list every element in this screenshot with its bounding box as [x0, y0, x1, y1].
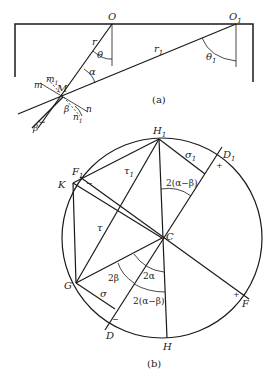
- r1-line: [18, 24, 236, 114]
- label-tau: τ: [97, 222, 103, 233]
- mohr-circle-figure: O O1 r r1 θ θ1 α m1 m M β n n1 β (a): [0, 0, 271, 386]
- label-D: D: [105, 330, 114, 341]
- label-K: K: [57, 179, 66, 190]
- label-F: F: [241, 298, 250, 309]
- label-n: n: [86, 104, 92, 114]
- arc-bottom: [134, 284, 165, 292]
- label-O1: O1: [229, 11, 242, 25]
- label-beta: β: [63, 104, 69, 114]
- label-angle-top: 2(α−β): [166, 178, 198, 188]
- label-angle-bottom: 2(α−β): [133, 296, 165, 306]
- label-tau1: τ1: [124, 165, 134, 179]
- label-C: C: [166, 231, 174, 242]
- label-2beta: 2β: [108, 273, 119, 283]
- label-minus-D: −: [112, 315, 119, 324]
- label-O: O: [108, 11, 116, 22]
- arc-top: [161, 188, 191, 196]
- caption-a: (a): [152, 94, 166, 105]
- label-H1: H1: [152, 125, 166, 139]
- label-G: G: [64, 280, 72, 291]
- sigma-line: [76, 283, 115, 309]
- label-H: H: [162, 341, 172, 352]
- label-plus-F: +: [233, 290, 240, 299]
- label-M: M: [56, 83, 68, 94]
- label-theta1: θ1: [206, 51, 217, 65]
- label-minus-F1: −: [86, 179, 93, 188]
- label-sigma1: σ1: [185, 149, 196, 163]
- label-sigma: σ: [100, 288, 108, 299]
- label-F1: F1: [71, 166, 83, 180]
- caption-b: (b): [147, 358, 161, 369]
- K-G-line: [73, 183, 76, 283]
- label-plus-D1: +: [216, 161, 223, 170]
- figure-a: O O1 r r1 θ θ1 α m1 m M β n n1 β (a): [15, 11, 253, 133]
- figure-b: H1 D1 + σ1 F1 − K τ1 2(α−β) τ C 2β 2α G …: [57, 125, 262, 369]
- label-2alpha: 2α: [143, 271, 155, 281]
- label-D1: D1: [222, 149, 236, 163]
- arc-2beta: [118, 263, 134, 283]
- label-m: m: [34, 80, 43, 90]
- label-r1: r1: [154, 43, 163, 57]
- label-alpha: α: [89, 66, 96, 77]
- label-beta-lower: β: [32, 123, 38, 133]
- arc-2alpha: [134, 254, 164, 272]
- label-theta: θ: [97, 49, 103, 60]
